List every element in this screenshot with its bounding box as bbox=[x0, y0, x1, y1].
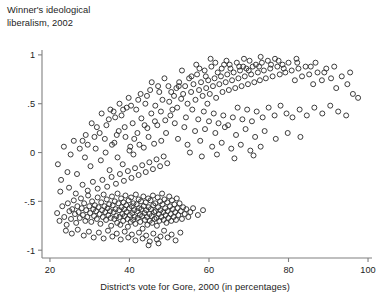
y-tick-label: -1 bbox=[27, 246, 35, 256]
scatter-plot-figure: Winner's ideological liberalism, 2002 -1… bbox=[0, 0, 390, 304]
data-point bbox=[191, 206, 196, 211]
data-point bbox=[339, 74, 344, 79]
data-point bbox=[146, 134, 151, 139]
data-point bbox=[74, 220, 79, 225]
data-point bbox=[95, 195, 100, 200]
data-point bbox=[154, 157, 159, 162]
data-point bbox=[199, 154, 204, 159]
data-point bbox=[80, 182, 85, 187]
data-point bbox=[313, 60, 318, 65]
data-point bbox=[207, 91, 212, 96]
data-point bbox=[129, 175, 134, 180]
data-point bbox=[210, 144, 215, 149]
data-point bbox=[312, 105, 317, 110]
data-point bbox=[261, 68, 266, 73]
data-point bbox=[118, 237, 123, 242]
data-point bbox=[158, 109, 163, 114]
data-point bbox=[102, 136, 107, 141]
data-point bbox=[344, 113, 349, 118]
data-point bbox=[185, 101, 190, 106]
data-point bbox=[104, 197, 109, 202]
data-point bbox=[221, 113, 226, 118]
data-point bbox=[201, 208, 206, 213]
data-point bbox=[231, 70, 236, 75]
data-point bbox=[138, 91, 143, 96]
data-point bbox=[153, 103, 158, 108]
data-point bbox=[198, 138, 203, 143]
data-point bbox=[83, 132, 88, 137]
data-point bbox=[133, 238, 138, 243]
data-point bbox=[126, 95, 131, 100]
data-point bbox=[179, 216, 184, 221]
data-point bbox=[199, 80, 204, 85]
data-point bbox=[136, 173, 141, 178]
data-point bbox=[98, 158, 103, 163]
data-point bbox=[136, 97, 141, 102]
data-point bbox=[175, 105, 180, 110]
data-point bbox=[179, 68, 184, 73]
data-point bbox=[67, 185, 72, 190]
data-point bbox=[193, 129, 198, 134]
data-point bbox=[166, 84, 171, 89]
data-point bbox=[100, 214, 105, 219]
data-point bbox=[170, 107, 175, 112]
data-point bbox=[77, 215, 82, 220]
data-point bbox=[266, 105, 271, 110]
data-point bbox=[59, 177, 64, 182]
data-point bbox=[137, 142, 142, 147]
data-point bbox=[134, 107, 139, 112]
data-point bbox=[260, 115, 265, 120]
data-point bbox=[109, 174, 114, 179]
data-point bbox=[213, 131, 218, 136]
data-point bbox=[109, 194, 114, 199]
data-point bbox=[175, 136, 180, 141]
data-point bbox=[239, 84, 244, 89]
data-point bbox=[187, 150, 192, 155]
data-point bbox=[298, 134, 303, 139]
data-point bbox=[289, 68, 294, 73]
data-point bbox=[96, 230, 101, 235]
data-point bbox=[130, 121, 135, 126]
data-point bbox=[106, 228, 111, 233]
data-point bbox=[229, 146, 234, 151]
data-point bbox=[275, 64, 280, 69]
data-point bbox=[120, 162, 125, 167]
data-point bbox=[101, 236, 106, 241]
data-point bbox=[205, 101, 210, 106]
data-point bbox=[75, 227, 80, 232]
data-point bbox=[218, 74, 223, 79]
x-tick-label: 80 bbox=[283, 265, 293, 275]
data-point bbox=[106, 117, 111, 122]
data-point bbox=[149, 80, 154, 85]
data-point bbox=[277, 72, 282, 77]
data-point bbox=[58, 189, 63, 194]
data-point bbox=[175, 206, 180, 211]
data-point bbox=[304, 113, 309, 118]
data-point bbox=[162, 197, 167, 202]
data-point bbox=[254, 109, 259, 114]
data-point bbox=[212, 76, 217, 81]
data-point bbox=[69, 231, 74, 236]
data-point bbox=[303, 64, 308, 69]
data-point bbox=[217, 82, 222, 87]
data-point bbox=[249, 119, 254, 124]
data-point bbox=[82, 201, 87, 206]
data-point bbox=[223, 80, 228, 85]
data-point bbox=[255, 70, 260, 75]
data-point bbox=[163, 118, 168, 123]
data-point bbox=[257, 78, 262, 83]
data-point bbox=[101, 192, 106, 197]
data-point bbox=[286, 60, 291, 65]
data-point bbox=[97, 131, 102, 136]
data-point bbox=[161, 154, 166, 159]
data-point bbox=[117, 101, 122, 106]
data-point bbox=[140, 163, 145, 168]
data-point bbox=[173, 238, 178, 243]
data-point bbox=[185, 142, 190, 147]
data-point bbox=[133, 166, 138, 171]
data-point bbox=[278, 103, 283, 108]
x-axis-ticks: 20406080100 bbox=[45, 258, 376, 275]
y-tick-label: .5 bbox=[27, 99, 35, 109]
data-point bbox=[213, 60, 218, 65]
data-point bbox=[308, 64, 313, 69]
